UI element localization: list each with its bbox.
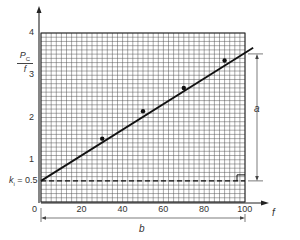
dimension-label-b: b: [139, 224, 145, 234]
data-point: [141, 109, 145, 113]
x-tick-label: 40: [117, 205, 127, 214]
dimension-label-a: a: [254, 104, 260, 114]
x-tick-label: 20: [77, 205, 87, 214]
y-tick-label: 4: [29, 28, 34, 37]
x-tick-label: 0: [32, 205, 37, 214]
chart-canvas: [0, 0, 300, 240]
y-tick-label: 3: [29, 70, 34, 79]
y-tick-label: 2: [29, 113, 34, 122]
x-tick-label: 100: [237, 205, 252, 214]
data-point: [182, 86, 186, 90]
x-tick-label: 60: [158, 205, 168, 214]
y-tick-label: 1: [29, 155, 34, 164]
intercept-label: ki = 0.5: [9, 176, 38, 187]
fit-line: [41, 48, 253, 181]
x-axis-label: f: [272, 208, 275, 218]
data-point: [222, 58, 226, 62]
x-tick-label: 80: [199, 205, 209, 214]
data-point: [100, 136, 104, 140]
